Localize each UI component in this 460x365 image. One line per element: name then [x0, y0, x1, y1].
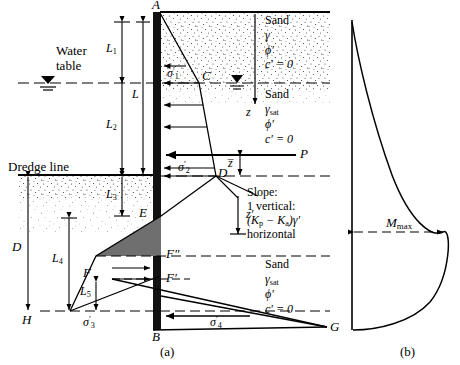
- point-label-C: C: [202, 69, 211, 84]
- line-toe-to-G: [153, 327, 327, 330]
- panel-b-caption: (b): [400, 345, 415, 360]
- dimension-label-L: L: [132, 88, 139, 102]
- dimension-label-L1: L1: [106, 42, 117, 57]
- stress-label-sigma1: σ′1: [167, 66, 179, 81]
- stress-label-sigma3: σ′3: [83, 315, 95, 330]
- point-label-D: D: [218, 166, 227, 181]
- point-label-A: A: [152, 0, 160, 13]
- point-label-E: E: [139, 206, 147, 221]
- dredge-line-label: Dredge line: [8, 160, 69, 175]
- point-label-F: F: [83, 266, 91, 281]
- stress-label-sigma4: σ′4: [210, 315, 222, 330]
- soil-properties-saturated-sand: Sand γsat ϕ′ c′ = 0: [265, 88, 293, 148]
- moment-curve: [352, 22, 448, 330]
- pressure-arrows-passive-upper: [112, 268, 150, 279]
- water-table-label: Water table: [56, 44, 87, 74]
- dimension-label-L4: L4: [52, 252, 63, 267]
- sheet-pile-wall: [153, 12, 161, 330]
- moment-max-label: Mmax: [386, 216, 412, 232]
- force-label-P: P: [300, 147, 308, 162]
- figure-container: Water table Dredge line A B C D E F F′ F…: [0, 0, 460, 365]
- dimension-label-L2: L2: [106, 118, 117, 133]
- pressure-arrows-lower: [164, 105, 216, 176]
- panel-a-caption: (a): [160, 345, 174, 360]
- dimension-label-z-bar: z̅: [228, 157, 233, 171]
- point-label-F-prime: F′: [166, 271, 177, 286]
- dredge-side-soil-fill: [18, 176, 160, 232]
- dimension-label-L3: L3: [106, 188, 117, 203]
- dimension-z-prime: [230, 196, 246, 234]
- soil-properties-below-dredge-sand: Sand γsat ϕ′ c′ = 0: [265, 258, 293, 318]
- point-label-B: B: [152, 330, 160, 345]
- point-label-F-double-prime: F″: [166, 247, 179, 262]
- slope-annotation: Slope: 1 vertical: (Kp − Ka)γ′ horizonta…: [247, 186, 300, 242]
- point-label-H: H: [22, 313, 31, 328]
- dimension-label-z: z: [246, 106, 251, 120]
- dimension-label-D: D: [12, 240, 21, 255]
- dimension-label-L5: L5: [80, 285, 91, 300]
- point-label-G: G: [330, 320, 339, 335]
- stress-label-sigma2: σ′2: [178, 160, 190, 175]
- soil-properties-upper-sand: Sand γ ϕ′ c′ = 0: [265, 14, 293, 73]
